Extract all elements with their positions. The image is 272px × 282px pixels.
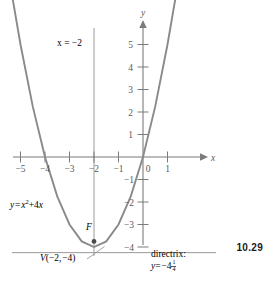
svg-text:1: 1: [128, 130, 133, 140]
svg-text:3: 3: [128, 85, 133, 95]
svg-text:4: 4: [128, 63, 133, 73]
figure-number: 10.29: [236, 242, 263, 253]
directrix-fraction: 14: [171, 260, 176, 273]
svg-text:−3: −3: [124, 220, 134, 230]
focus-point: [92, 239, 97, 244]
axis-of-symmetry-label: x = −2: [57, 38, 82, 48]
vertex-label: V(−2, −4): [40, 253, 76, 263]
curve-equation-label: y = x2+4x: [10, 198, 43, 210]
directrix-label-line1: directrix:: [151, 249, 186, 260]
x-axis: [13, 153, 208, 160]
svg-text:2: 2: [128, 108, 133, 118]
y-tick-labels: 5 4 3 2 1 −1 −2 −3 −4: [124, 40, 134, 253]
directrix-fraction-denominator: 4: [171, 267, 176, 273]
svg-text:−4: −4: [124, 243, 134, 253]
svg-text:1: 1: [165, 164, 170, 174]
svg-text:−2: −2: [124, 198, 134, 208]
parabola-chart: −5 −4 −3 −2 −1 0 1 5 4 3 2 1 −1 −2 −3 −4…: [0, 0, 272, 282]
focus-label: F: [86, 222, 92, 232]
svg-text:−2: −2: [89, 164, 99, 174]
curve-equation-tailvar: x: [39, 200, 43, 210]
y-axis: [139, 20, 146, 245]
directrix-label: directrix: y= −414: [151, 249, 186, 273]
svg-text:−4: −4: [40, 164, 50, 174]
svg-text:0: 0: [146, 164, 151, 174]
parabola-figure: −5 −4 −3 −2 −1 0 1 5 4 3 2 1 −1 −2 −3 −4…: [0, 0, 272, 282]
directrix-label-line2: y= −414: [151, 260, 186, 273]
vertex-label-coords: (−2, −4): [46, 253, 76, 263]
x-axis-label: x: [210, 153, 216, 163]
focus-label-text: F: [86, 222, 92, 232]
y-axis-label: y: [140, 8, 146, 18]
svg-text:5: 5: [128, 40, 133, 50]
svg-text:−1: −1: [124, 175, 134, 185]
svg-text:−1: −1: [113, 164, 123, 174]
curve-equation-tail: +4: [29, 200, 39, 210]
svg-text:−3: −3: [64, 164, 74, 174]
x-tick-labels: −5 −4 −3 −2 −1 0 1: [15, 164, 170, 174]
svg-text:−5: −5: [15, 164, 25, 174]
